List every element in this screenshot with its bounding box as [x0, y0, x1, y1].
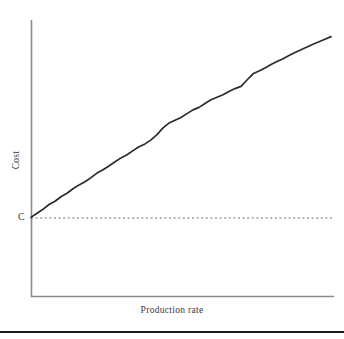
fixed-cost-intercept-label: C	[18, 211, 25, 223]
chart-plot-area	[0, 0, 344, 339]
cost-production-chart-figure: Cost Production rate C	[0, 0, 344, 339]
x-axis-label: Production rate	[0, 305, 344, 315]
y-axis-label-container: Cost	[6, 130, 26, 190]
total-cost-curve	[31, 37, 331, 218]
y-axis-label: Cost	[11, 151, 21, 170]
footer-divider-rule	[0, 331, 344, 333]
